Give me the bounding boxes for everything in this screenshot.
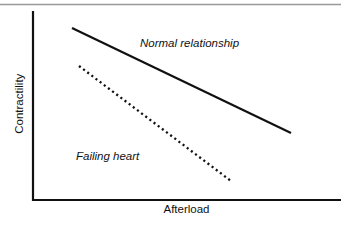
normal-relationship-label: Normal relationship [140, 38, 239, 50]
plot-canvas [0, 0, 341, 226]
x-axis-label: Afterload [163, 204, 209, 216]
figure-container: Normal relationship Failing heart Afterl… [0, 0, 341, 226]
y-axis-label: Contractility [14, 94, 26, 134]
x-axis-label-wrap: Afterload [0, 204, 341, 216]
failing-heart-line [79, 66, 231, 181]
failing-heart-label: Failing heart [76, 151, 139, 163]
